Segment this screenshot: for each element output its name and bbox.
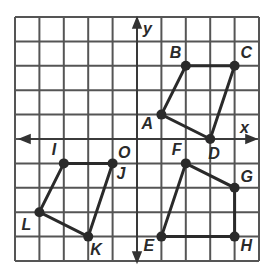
vertex-label-c: C	[241, 44, 253, 61]
x-axis-label: x	[239, 119, 250, 136]
vertex-label-h: H	[241, 237, 253, 254]
vertex-point-c	[230, 61, 240, 71]
x-axis-right-arrow-icon	[246, 135, 256, 143]
y-axis-label: y	[142, 20, 153, 37]
quadrilateral-outline	[161, 163, 234, 236]
vertex-label-j: J	[117, 165, 127, 182]
quadrilateral-efgh: EFGH	[143, 141, 253, 253]
vertex-point-d	[205, 134, 215, 144]
vertex-label-g: G	[241, 168, 253, 185]
vertex-label-e: E	[143, 237, 155, 254]
quadrilateral-outline	[161, 66, 234, 139]
vertex-label-b: B	[170, 44, 182, 61]
vertex-point-f	[181, 158, 191, 168]
vertex-label-l: L	[21, 216, 31, 233]
vertex-point-l	[34, 207, 44, 217]
quadrilateral-ijkl: IJKL	[21, 141, 126, 257]
vertex-point-h	[230, 232, 240, 242]
y-axis-up-arrow-icon	[133, 18, 141, 28]
quadrilateral-outline	[39, 163, 112, 236]
vertex-point-b	[181, 61, 191, 71]
coordinate-grid: y x O ABCDEFGHIJKL	[0, 0, 269, 273]
vertex-label-d: D	[208, 145, 220, 162]
vertex-label-a: A	[140, 115, 153, 132]
vertex-label-k: K	[90, 241, 103, 258]
x-axis-left-arrow-icon	[20, 135, 30, 143]
vertex-point-a	[156, 110, 166, 120]
vertex-label-f: F	[172, 141, 183, 158]
vertex-point-g	[230, 183, 240, 193]
vertex-point-e	[156, 232, 166, 242]
vertex-label-i: I	[52, 141, 57, 158]
quadrilateral-abcd: ABCD	[140, 44, 252, 162]
vertex-point-i	[59, 158, 69, 168]
origin-label: O	[118, 144, 131, 161]
